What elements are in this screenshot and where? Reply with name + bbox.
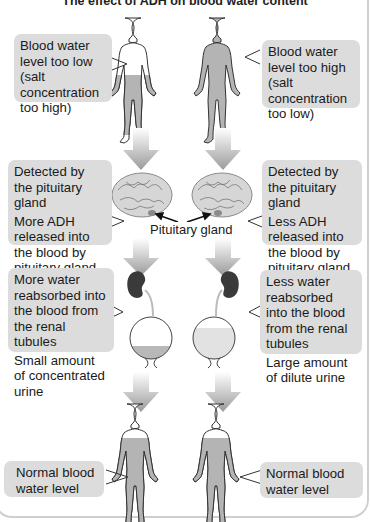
bladder-left <box>128 317 174 368</box>
figure-overhydrated <box>194 18 240 143</box>
box-left-stage1: Blood water level too low (salt concentr… <box>14 34 112 102</box>
box-left-stage2: Detected by the pituitary gland More ADH… <box>8 160 112 245</box>
flow-arrows <box>123 128 241 412</box>
kidney-right <box>221 271 239 298</box>
box-right-stage4: Normal blood water level <box>260 462 363 498</box>
pituitary-gland-label: Pituitary gland <box>148 222 234 237</box>
bladder-right <box>191 317 237 368</box>
box-left-stage3: More water reabsorbed into the blood fro… <box>8 268 114 352</box>
box-right-stage3: Less water reabsorbed into the blood fro… <box>260 270 362 354</box>
kidney-left <box>127 271 145 298</box>
box-left-stage4: Normal blood water level <box>4 461 104 497</box>
brain-left <box>112 173 172 217</box>
brain-right <box>192 173 252 217</box>
box-right-stage1: Blood water level too high (salt concent… <box>262 40 360 108</box>
box-right-stage2: Detected by the pituitary gland Less ADH… <box>262 160 362 245</box>
